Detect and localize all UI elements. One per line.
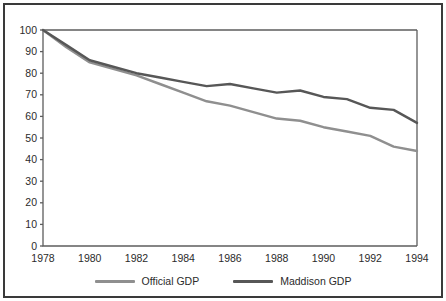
y-tick-label: 100 — [19, 24, 37, 36]
x-tick-label: 1986 — [218, 252, 242, 264]
y-tick-label: 20 — [25, 196, 37, 208]
x-tick-label: 1992 — [359, 252, 383, 264]
legend-entry-maddison-gdp[interactable]: Maddison GDP — [233, 275, 351, 287]
x-tick-label: 1990 — [312, 252, 336, 264]
series-line-official-gdp — [43, 30, 417, 151]
x-tick-label: 1994 — [405, 252, 429, 264]
x-tick-label: 1978 — [31, 252, 55, 264]
legend-label: Maddison GDP — [280, 275, 351, 287]
chart-legend: Official GDPMaddison GDP — [0, 275, 446, 287]
line-chart-plot: 0102030405060708090100197819801982198419… — [0, 0, 446, 301]
chart-area: 0102030405060708090100197819801982198419… — [0, 0, 446, 301]
y-tick-label: 60 — [25, 110, 37, 122]
legend-swatch-icon — [95, 280, 135, 283]
y-tick-label: 0 — [31, 240, 37, 252]
y-tick-label: 90 — [25, 45, 37, 57]
series-line-maddison-gdp — [43, 30, 417, 123]
y-tick-label: 70 — [25, 88, 37, 100]
y-tick-label: 10 — [25, 218, 37, 230]
legend-label: Official GDP — [142, 275, 200, 287]
legend-entry-official-gdp[interactable]: Official GDP — [95, 275, 200, 287]
y-tick-label: 40 — [25, 153, 37, 165]
x-tick-label: 1980 — [78, 252, 102, 264]
x-tick-label: 1982 — [125, 252, 149, 264]
y-tick-label: 80 — [25, 67, 37, 79]
figure-container: 0102030405060708090100197819801982198419… — [0, 0, 446, 301]
x-tick-label: 1984 — [172, 252, 196, 264]
y-tick-label: 30 — [25, 175, 37, 187]
x-tick-label: 1988 — [265, 252, 289, 264]
legend-swatch-icon — [233, 280, 273, 283]
y-tick-label: 50 — [25, 132, 37, 144]
